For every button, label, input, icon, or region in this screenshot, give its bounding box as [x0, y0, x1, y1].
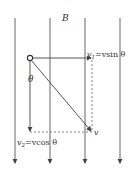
v-label: v [94, 128, 99, 137]
diagram-canvas: B θ v1=vsin θ v2=vcos θ v [0, 0, 137, 174]
v1-label: v1=vsin θ [87, 50, 126, 60]
v2-label: v2=vcos θ [17, 138, 57, 148]
field-label-b: B [61, 13, 69, 23]
particle-icon [27, 55, 32, 60]
v-arrow [31, 60, 91, 131]
angle-label-theta: θ [28, 74, 34, 84]
